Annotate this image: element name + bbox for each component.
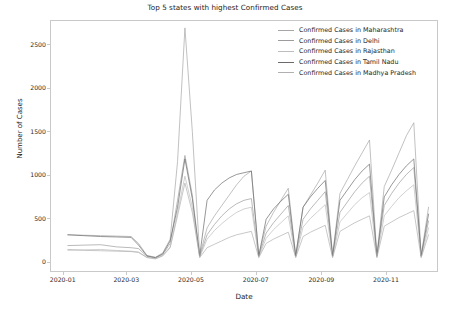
x-tick-mark — [191, 272, 192, 275]
chart-legend: Confirmed Cases in MaharashtraConfirmed … — [278, 25, 440, 78]
legend-line-icon — [278, 37, 294, 45]
x-tick-mark — [126, 272, 127, 275]
legend-item[interactable]: Confirmed Cases in Delhi — [278, 36, 440, 47]
x-axis-label: Date — [50, 292, 438, 301]
x-tick-label: 2020-05 — [161, 276, 221, 284]
x-tick-label: 2020-03 — [96, 276, 156, 284]
legend-item-label: Confirmed Cases in Delhi — [299, 37, 380, 45]
x-tick-label: 2020-11 — [356, 276, 416, 284]
x-tick-mark — [256, 272, 257, 275]
legend-item-label: Confirmed Cases in Tamil Nadu — [299, 58, 398, 66]
x-tick-label: 2020-07 — [226, 276, 286, 284]
x-tick-label: 2020-01 — [33, 276, 93, 284]
x-tick-label: 2020-09 — [291, 276, 351, 284]
legend-item[interactable]: Confirmed Cases in Maharashtra — [278, 25, 440, 36]
legend-item-label: Confirmed Cases in Maharashtra — [299, 26, 403, 34]
legend-line-icon — [278, 69, 294, 77]
x-tick-mark — [321, 272, 322, 275]
x-tick-mark — [386, 272, 387, 275]
chart-figure: Top 5 states with highest Confirmed Case… — [0, 0, 450, 318]
legend-line-icon — [278, 47, 294, 55]
legend-item[interactable]: Confirmed Cases in Rajasthan — [278, 46, 440, 57]
legend-item-label: Confirmed Cases in Rajasthan — [299, 47, 395, 55]
legend-item-label: Confirmed Cases in Madhya Pradesh — [299, 69, 416, 77]
legend-item[interactable]: Confirmed Cases in Madhya Pradesh — [278, 67, 440, 78]
legend-item[interactable]: Confirmed Cases in Tamil Nadu — [278, 57, 440, 68]
legend-line-icon — [278, 58, 294, 66]
legend-line-icon — [278, 26, 294, 34]
x-tick-mark — [63, 272, 64, 275]
